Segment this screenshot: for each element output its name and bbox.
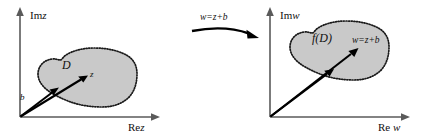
right-real-axis-label-var: w	[393, 121, 400, 133]
right-imaginary-axis-arrowhead	[266, 7, 274, 16]
right-real-axis-label: Re w	[378, 122, 400, 133]
map-arrow-head	[247, 30, 260, 39]
right-real-axis-arrowhead	[401, 113, 410, 121]
left-region-label: D	[62, 59, 71, 71]
left-region-D	[38, 48, 137, 107]
left-vector-z-label: z	[90, 70, 94, 79]
right-imaginary-axis-label-var: w	[292, 9, 299, 21]
map-arrow	[192, 28, 259, 38]
left-vector-b-label: b	[20, 93, 25, 102]
right-region-label: f(D)	[312, 32, 332, 44]
left-real-axis-arrowhead	[151, 113, 160, 121]
left-imaginary-axis-label: Imz	[30, 10, 47, 21]
right-imaginary-axis-label: Imw	[280, 10, 300, 21]
left-region-fill	[38, 48, 137, 107]
right-imaginary-axis-label-re: Im	[280, 9, 292, 21]
right-real-axis-label-re: Re	[378, 121, 390, 133]
map-arrow-label: w=z+b	[200, 13, 228, 23]
left-imaginary-axis-label-var: z	[42, 9, 46, 21]
left-imaginary-axis-label-re: Im	[30, 9, 42, 21]
right-vector-w-label: w=z+b	[352, 36, 380, 46]
left-imaginary-axis-arrowhead	[16, 7, 24, 16]
left-real-axis-label: Rez	[128, 122, 145, 133]
map-arrow-shaft	[192, 28, 249, 33]
right-region-fD	[290, 21, 389, 80]
left-real-axis-label-var: z	[140, 121, 144, 133]
left-real-axis-label-re: Re	[128, 121, 140, 133]
right-region-fill	[290, 21, 389, 80]
complex-plane-translation-figure: Imz Rez D z b w=z+b Imw Re w f(D) w=z+b	[0, 0, 445, 139]
